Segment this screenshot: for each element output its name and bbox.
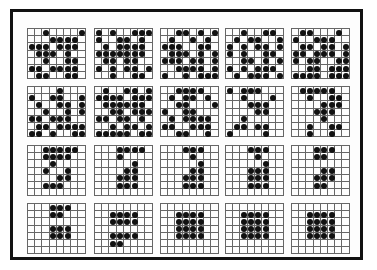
dot-cell [233, 72, 240, 79]
dot-cell [233, 36, 240, 43]
dot-cell [190, 175, 197, 182]
dot-cell [42, 43, 49, 50]
dot-cell [314, 218, 321, 225]
empty-cell [276, 240, 283, 247]
empty-cell [269, 130, 276, 137]
empty-cell [240, 72, 247, 79]
empty-cell [71, 51, 78, 58]
empty-cell [28, 36, 35, 43]
empty-cell [262, 116, 269, 123]
empty-cell [342, 109, 349, 116]
empty-cell [64, 94, 71, 101]
empty-cell [233, 109, 240, 116]
dot-cell [197, 146, 204, 153]
empty-cell [161, 94, 168, 101]
dot-cell [314, 58, 321, 65]
dot-cell [306, 226, 313, 233]
empty-cell [175, 204, 182, 211]
dot-cell [35, 43, 42, 50]
dot-cell [42, 58, 49, 65]
empty-cell [175, 109, 182, 116]
dot-cell [262, 123, 269, 130]
dot-cell [269, 51, 276, 58]
empty-cell [78, 182, 85, 189]
empty-cell [28, 204, 35, 211]
dot-cell [109, 240, 116, 247]
dot-cell [306, 43, 313, 50]
empty-cell [233, 51, 240, 58]
empty-cell [168, 233, 175, 240]
empty-cell [161, 218, 168, 225]
empty-cell [211, 146, 218, 153]
empty-cell [42, 211, 49, 218]
dot-cell [175, 226, 182, 233]
dot-cell [321, 218, 328, 225]
empty-cell [342, 211, 349, 218]
empty-cell [95, 101, 102, 108]
dot-cell [95, 94, 102, 101]
dot-cell [109, 72, 116, 79]
empty-cell [197, 204, 204, 211]
empty-cell [335, 218, 342, 225]
dot-cell [64, 175, 71, 182]
empty-cell [262, 36, 269, 43]
dot-cell [57, 182, 64, 189]
dot-cell [57, 211, 64, 218]
empty-cell [255, 240, 262, 247]
empty-cell [306, 168, 313, 175]
empty-cell [102, 233, 109, 240]
empty-cell [102, 204, 109, 211]
dot-cell [255, 87, 262, 94]
dot-cell [175, 58, 182, 65]
empty-cell [50, 43, 57, 50]
empty-cell [175, 189, 182, 196]
empty-cell [183, 240, 190, 247]
dot-cell [262, 226, 269, 233]
empty-cell [233, 153, 240, 160]
dot-cell [292, 36, 299, 43]
dot-cell [328, 51, 335, 58]
empty-cell [145, 72, 152, 79]
dot-cell [117, 51, 124, 58]
empty-cell [28, 160, 35, 167]
empty-cell [28, 168, 35, 175]
dot-cell [131, 175, 138, 182]
empty-cell [35, 109, 42, 116]
empty-cell [78, 43, 85, 50]
empty-cell [168, 153, 175, 160]
empty-cell [161, 175, 168, 182]
empty-cell [335, 51, 342, 58]
dot-cell [175, 211, 182, 218]
empty-cell [306, 182, 313, 189]
empty-cell [276, 204, 283, 211]
dot-cell [124, 211, 131, 218]
dot-cell [211, 65, 218, 72]
dot-cell [262, 51, 269, 58]
empty-cell [335, 43, 342, 50]
dot-cell [262, 168, 269, 175]
empty-cell [190, 204, 197, 211]
dot-cell [50, 36, 57, 43]
dot-cell [64, 72, 71, 79]
empty-cell [269, 240, 276, 247]
dot-cell [197, 72, 204, 79]
dot-cell [183, 116, 190, 123]
empty-cell [314, 94, 321, 101]
empty-cell [175, 175, 182, 182]
empty-cell [321, 247, 328, 254]
empty-cell [145, 204, 152, 211]
dot-cell [255, 226, 262, 233]
empty-cell [28, 51, 35, 58]
dot-cell [328, 65, 335, 72]
empty-cell [78, 72, 85, 79]
dot-cell [168, 58, 175, 65]
empty-cell [78, 65, 85, 72]
dot-cell [138, 36, 145, 43]
dot-cell [314, 36, 321, 43]
empty-cell [78, 146, 85, 153]
empty-cell [64, 240, 71, 247]
empty-cell [117, 29, 124, 36]
empty-cell [168, 211, 175, 218]
empty-cell [78, 240, 85, 247]
empty-cell [204, 182, 211, 189]
